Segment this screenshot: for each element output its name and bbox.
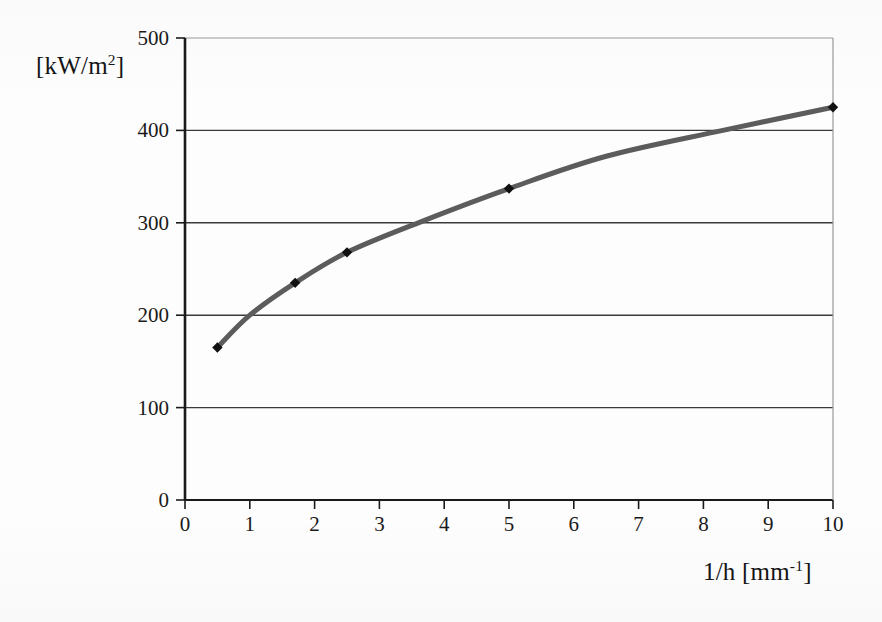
y-tick-label: 500 <box>138 26 170 50</box>
x-tick-label: 3 <box>374 512 385 536</box>
x-tick-label: 1 <box>245 512 256 536</box>
x-tick-marks-group <box>185 500 833 509</box>
chart-page: [kW/m2] 1/h [mm-1] 012345678910 01002003… <box>0 0 882 622</box>
gridlines-group <box>185 38 833 408</box>
x-tick-label: 8 <box>698 512 709 536</box>
x-tick-label: 6 <box>569 512 580 536</box>
series-line-group <box>217 107 833 347</box>
y-tick-label: 200 <box>138 303 170 327</box>
x-tick-label: 9 <box>763 512 774 536</box>
x-tick-label: 2 <box>309 512 320 536</box>
x-tick-label: 5 <box>504 512 515 536</box>
y-tick-label: 100 <box>138 396 170 420</box>
x-tick-label: 4 <box>439 512 450 536</box>
y-tick-label: 300 <box>138 211 170 235</box>
y-tick-labels-group: 0100200300400500 <box>138 26 170 512</box>
x-tick-label: 10 <box>823 512 844 536</box>
x-tick-label: 0 <box>180 512 191 536</box>
series-line-heat-flux <box>217 107 833 347</box>
data-point-marker <box>828 102 838 112</box>
y-tick-label: 400 <box>138 118 170 142</box>
x-tick-label: 7 <box>633 512 644 536</box>
line-chart: 012345678910 0100200300400500 <box>0 0 882 622</box>
y-tick-marks-group <box>176 38 185 500</box>
x-tick-labels-group: 012345678910 <box>180 512 844 536</box>
axes-group <box>185 38 833 500</box>
y-tick-label: 0 <box>159 488 170 512</box>
